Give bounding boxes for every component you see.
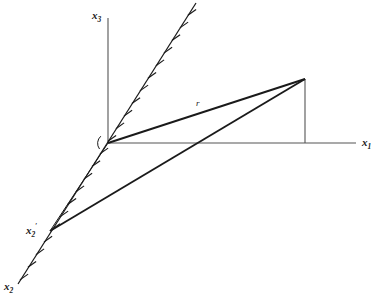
angle-arc <box>98 136 101 149</box>
axis-label-x2-prime-sub: 2 <box>32 230 36 239</box>
segment-label-r: r <box>196 99 200 108</box>
axis-label-x1: x1 <box>362 137 371 151</box>
axis-label-x2-prime-mark: ′ <box>35 221 37 231</box>
figure-container: x3 x1 x2′ x2 r <box>0 0 382 298</box>
axis-label-x2: x2 <box>4 281 13 295</box>
apex-to-x2prime-line <box>50 79 305 231</box>
axis-label-x3: x3 <box>92 10 101 24</box>
axis-label-x1-sub: 1 <box>368 142 372 151</box>
axis-label-x2-sub: 2 <box>10 286 14 295</box>
r-segment-line <box>108 79 305 143</box>
geometry-diagram <box>0 0 382 298</box>
axis-label-x3-sub: 3 <box>98 15 102 24</box>
axis-label-x2-prime: x2′ <box>26 222 37 238</box>
